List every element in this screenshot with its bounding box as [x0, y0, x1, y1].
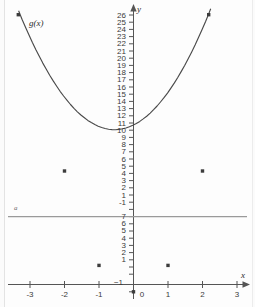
- curve-label-g: g(x): [29, 19, 44, 28]
- line-label-a: a: [14, 205, 18, 212]
- x-tick-label: 1: [158, 291, 178, 299]
- data-point-marker: [207, 13, 210, 16]
- x-axis-arrowhead: [243, 281, 251, 288]
- plot-canvas: [0, 0, 255, 307]
- x-tick-label: 3: [227, 291, 247, 299]
- y-tick-marks: [129, 15, 133, 292]
- data-point-marker: [97, 264, 100, 267]
- data-point-marker: [17, 13, 20, 16]
- x-tick-label: -1: [89, 291, 109, 299]
- data-point-marker: [63, 169, 66, 172]
- x-tick-label-origin: 0: [136, 291, 148, 299]
- y-tick-label-1: 1: [104, 256, 126, 264]
- x-axis-name: x: [241, 271, 245, 280]
- graph-figure: 26 25 24 23 22 21 20 19 18 17 16 15 14 1…: [0, 0, 255, 307]
- data-point-marker: [201, 169, 204, 172]
- data-point-marker: [166, 264, 169, 267]
- x-tick-label: 2: [193, 291, 213, 299]
- x-tick-label: -3: [20, 291, 40, 299]
- y-axis-arrowhead: [130, 4, 136, 12]
- data-point-marker: [132, 290, 135, 293]
- y-axis-name: y: [137, 5, 141, 14]
- y-tick-label-neg1: −1: [101, 279, 123, 287]
- y-tick-label: -1: [104, 199, 126, 207]
- x-tick-label: -2: [55, 291, 75, 299]
